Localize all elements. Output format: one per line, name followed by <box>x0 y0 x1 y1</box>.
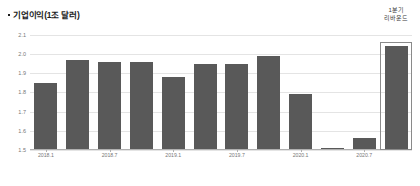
bar <box>66 60 89 150</box>
x-axis-tick-mark <box>110 150 111 152</box>
y-axis-tick-label: 2.1 <box>18 32 26 38</box>
bar <box>34 83 57 150</box>
y-axis-tick-label: 1.6 <box>18 128 26 134</box>
x-axis-tick-label: 2020.7 <box>356 152 372 158</box>
y-axis-tick-label: 1.8 <box>18 89 26 95</box>
axis-baseline <box>30 149 412 150</box>
bar <box>162 77 185 150</box>
y-axis-tick-label: 1.7 <box>18 109 26 115</box>
highlight-box <box>380 42 412 150</box>
bars-layer <box>30 31 412 150</box>
chart-title-text: 기업이익(1조 달러) <box>13 10 80 20</box>
bar <box>194 64 217 150</box>
bar <box>289 94 312 150</box>
bar <box>225 64 248 150</box>
annotation-line-1: 1분기 <box>356 7 420 15</box>
y-axis-tick-label: 1.5 <box>18 147 26 153</box>
plot-area: 2.12.01.91.81.71.61.5 <box>30 31 412 150</box>
x-axis-tick-label: 2020.1 <box>293 152 309 158</box>
x-axis-tick-mark <box>173 150 174 152</box>
bar <box>98 62 121 150</box>
x-axis-tick-mark <box>46 150 47 152</box>
x-axis-tick-label: 2019.7 <box>229 152 245 158</box>
chart-container: 기업이익(1조 달러) 2.12.01.91.81.71.61.5 2018.1… <box>0 0 420 186</box>
gridline <box>30 150 412 151</box>
bar <box>130 62 153 150</box>
annotation-line-2: 리바운드 <box>356 15 420 23</box>
x-axis-tick-mark <box>237 150 238 152</box>
x-axis: 2018.12018.72019.12019.72020.12020.7 <box>30 152 412 166</box>
x-axis-tick-label: 2018.1 <box>38 152 54 158</box>
chart-annotation: 1분기리바운드 <box>356 7 420 22</box>
x-axis-tick-label: 2018.7 <box>102 152 118 158</box>
x-axis-tick-label: 2019.1 <box>165 152 181 158</box>
x-axis-tick-mark <box>301 150 302 152</box>
bullet-icon <box>8 14 10 16</box>
y-axis-tick-label: 1.9 <box>18 70 26 76</box>
x-axis-tick-mark <box>364 150 365 152</box>
chart-title: 기업이익(1조 달러) <box>8 8 80 20</box>
y-axis-tick-label: 2.0 <box>18 51 26 57</box>
bar <box>257 56 280 150</box>
